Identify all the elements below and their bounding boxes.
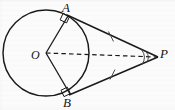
label-point-a: A [62,1,70,14]
congruence-tick-pb [110,70,115,80]
tangent-ap-line [67,15,158,57]
dashed-op-line [46,53,156,57]
label-point-p: P [160,47,168,60]
label-point-b: B [63,96,71,109]
geometry-figure: A B O P [0,0,175,110]
geometry-canvas [0,0,175,110]
label-center-o: O [31,49,40,61]
